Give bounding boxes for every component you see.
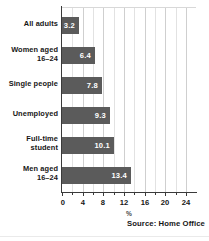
category-label-men-aged-16-24: Men aged 16–24 xyxy=(0,165,58,182)
tick-16 xyxy=(145,192,146,196)
category-label-line: 16–24 xyxy=(37,173,58,182)
bar-value-label: 3.2 xyxy=(64,17,75,34)
tick-label-16: 16 xyxy=(141,198,150,207)
bottom-divider xyxy=(0,236,209,237)
tick-18 xyxy=(155,192,156,195)
bar-value-label: 10.1 xyxy=(94,137,110,154)
gridline-10 xyxy=(114,8,115,192)
tick-20 xyxy=(165,192,166,196)
category-label-line: All adults xyxy=(24,19,58,28)
category-label-single-people: Single people xyxy=(0,80,58,89)
tick-label-0: 0 xyxy=(61,198,65,207)
bar-unemployed[interactable]: 9.3 xyxy=(62,107,110,124)
y-axis-line xyxy=(61,6,62,193)
gridline-12 xyxy=(124,8,125,192)
tick-8 xyxy=(103,192,104,196)
tick-2 xyxy=(72,192,73,195)
category-label-full-time-student: Full-time student xyxy=(0,135,58,152)
bar-value-label: 6.4 xyxy=(80,47,91,64)
tick-6 xyxy=(93,192,94,195)
gridline-20 xyxy=(165,8,166,192)
bar-single-people[interactable]: 7.8 xyxy=(62,77,102,94)
bar-value-label: 7.8 xyxy=(87,77,98,94)
tick-24 xyxy=(186,192,187,196)
bar-women-aged-16-24[interactable]: 6.4 xyxy=(62,47,95,64)
category-label-all-adults: All adults xyxy=(0,20,58,29)
tick-label-8: 8 xyxy=(101,198,105,207)
category-label-line: 16–24 xyxy=(37,54,58,63)
category-label-line: student xyxy=(31,143,58,152)
tick-10 xyxy=(114,192,115,195)
x-axis-title: % xyxy=(62,210,196,217)
gridline-2 xyxy=(72,8,73,192)
category-label-line: Single people xyxy=(9,79,58,88)
tick-14 xyxy=(134,192,135,195)
gridline-16 xyxy=(145,8,146,192)
plot-area: 3.2 6.4 7.8 9.3 10.1 13.4 xyxy=(62,8,196,192)
gridline-24 xyxy=(186,8,187,192)
category-label-line: Unemployed xyxy=(13,109,58,118)
bar-all-adults[interactable]: 3.2 xyxy=(62,17,79,34)
tick-label-24: 24 xyxy=(182,198,191,207)
tick-label-4: 4 xyxy=(81,198,85,207)
bar-chart: All adults Women aged 16–24 Single peopl… xyxy=(0,0,209,241)
bar-value-label: 9.3 xyxy=(95,107,106,124)
tick-label-12: 12 xyxy=(120,198,129,207)
bar-value-label: 13.4 xyxy=(111,167,127,184)
tick-0 xyxy=(62,192,63,196)
bar-men-aged-16-24[interactable]: 13.4 xyxy=(62,167,131,184)
gridline-22 xyxy=(176,8,177,192)
gridline-14 xyxy=(134,8,135,192)
tick-label-20: 20 xyxy=(161,198,170,207)
tick-4 xyxy=(83,192,84,196)
source-note: Source: Home Office xyxy=(0,219,205,228)
tick-22 xyxy=(176,192,177,195)
bar-full-time-student[interactable]: 10.1 xyxy=(62,137,114,154)
gridline-8 xyxy=(103,8,104,192)
tick-12 xyxy=(124,192,125,196)
gridline-18 xyxy=(155,8,156,192)
gridline-6 xyxy=(93,8,94,192)
category-label-women-aged-16-24: Women aged 16–24 xyxy=(0,46,58,63)
category-label-unemployed: Unemployed xyxy=(0,110,58,119)
gridline-4 xyxy=(83,8,84,192)
x-axis-tick-labels: 0 4 8 12 16 20 24 xyxy=(62,198,196,208)
category-axis-labels: All adults Women aged 16–24 Single peopl… xyxy=(0,8,58,192)
